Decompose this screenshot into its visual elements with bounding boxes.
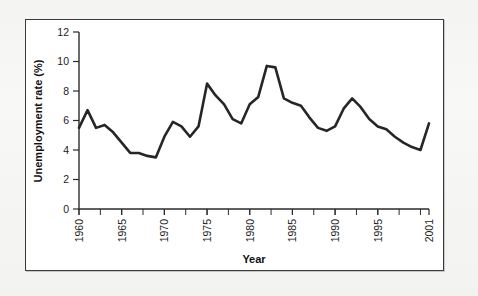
chart-plot-area: 024681012 196019651970197519801985199019… bbox=[26, 20, 445, 272]
y-axis-tick-labels: 024681012 bbox=[57, 26, 69, 215]
y-axis-title: Unemployment rate (%) bbox=[32, 59, 44, 182]
unemployment-line-chart: 024681012 196019651970197519801985199019… bbox=[26, 20, 445, 272]
x-axis-ticks bbox=[79, 209, 429, 215]
x-tick-label: 1980 bbox=[244, 219, 256, 243]
x-tick-label: 1960 bbox=[73, 219, 85, 243]
x-tick-label: 1965 bbox=[116, 219, 128, 243]
axes-group bbox=[79, 32, 429, 209]
x-tick-label: 1970 bbox=[158, 219, 170, 243]
x-tick-label: 1995 bbox=[372, 219, 384, 243]
y-axis-ticks bbox=[73, 32, 79, 209]
x-tick-label: 1985 bbox=[286, 219, 298, 243]
y-tick-label: 2 bbox=[63, 173, 69, 185]
x-tick-label: 1975 bbox=[201, 219, 213, 243]
y-tick-label: 4 bbox=[63, 144, 69, 156]
y-tick-label: 12 bbox=[57, 26, 69, 38]
y-tick-label: 0 bbox=[63, 203, 69, 215]
x-axis-tick-labels: 196019651970197519801985199019952001 bbox=[73, 219, 435, 243]
x-tick-label: 2001 bbox=[423, 219, 435, 243]
unemployment-rate-series bbox=[79, 66, 429, 157]
y-tick-label: 10 bbox=[57, 55, 69, 67]
y-tick-label: 8 bbox=[63, 85, 69, 97]
x-axis-title: Year bbox=[242, 253, 266, 265]
y-tick-label: 6 bbox=[63, 114, 69, 126]
x-tick-label: 1990 bbox=[329, 219, 341, 243]
figure-frame: 024681012 196019651970197519801985199019… bbox=[25, 19, 444, 271]
